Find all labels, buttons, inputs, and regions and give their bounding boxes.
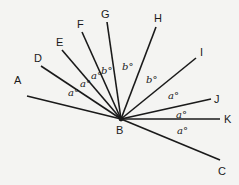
angle-label-d-e: a°	[80, 78, 91, 89]
angle-label-k-c: a°	[177, 125, 188, 136]
diagram-canvas: ADEFGHIJKCBa°a°a°b°b°b°a°a°a°	[0, 0, 239, 185]
point-label-j: J	[214, 93, 220, 105]
point-label-h: H	[154, 12, 162, 24]
angle-label-g-h: b°	[122, 61, 133, 72]
point-label-f: F	[77, 18, 84, 30]
vertex-point	[119, 117, 124, 122]
angle-label-h-i: b°	[146, 74, 157, 85]
point-label-e: E	[56, 36, 63, 48]
point-label-c: C	[218, 165, 226, 177]
point-label-d: D	[34, 52, 42, 64]
angle-diagram: ADEFGHIJKCBa°a°a°b°b°b°a°a°a°	[0, 0, 239, 185]
angle-label-a-d: a°	[68, 87, 79, 98]
point-label-b: B	[116, 124, 123, 136]
point-label-i: I	[200, 46, 203, 58]
point-label-g: G	[101, 8, 110, 20]
angle-label-f-g: b°	[101, 65, 112, 76]
ray-BC	[121, 119, 220, 160]
point-label-k: K	[224, 113, 232, 125]
angle-label-i-j: a°	[168, 90, 179, 101]
ray-BA	[27, 96, 121, 119]
point-label-a: A	[14, 74, 22, 86]
angle-label-j-k: a°	[176, 109, 187, 120]
